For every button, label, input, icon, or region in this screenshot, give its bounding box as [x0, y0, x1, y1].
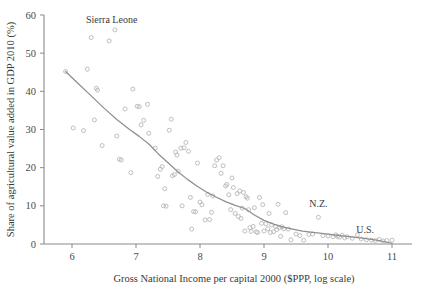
data-point	[139, 123, 143, 127]
data-point	[147, 131, 151, 135]
data-point	[213, 164, 217, 168]
data-point	[85, 67, 89, 71]
y-tick-label: 40	[26, 86, 37, 97]
data-point	[156, 174, 160, 178]
point-annotation-label: Sierra Leone	[86, 14, 138, 25]
data-point	[294, 232, 298, 236]
data-point	[221, 164, 225, 168]
data-point	[188, 195, 192, 199]
x-tick-label: 6	[69, 251, 74, 262]
data-point	[238, 189, 242, 193]
data-point	[258, 195, 262, 199]
data-point	[261, 203, 265, 207]
data-point	[302, 238, 306, 242]
data-points-group	[64, 28, 394, 243]
data-point	[92, 118, 96, 122]
data-point	[186, 149, 190, 153]
data-point	[107, 39, 111, 43]
x-tick-label: 7	[133, 251, 138, 262]
data-point	[307, 232, 311, 236]
point-annotation-label: N.Z.	[309, 198, 327, 209]
data-point	[131, 87, 135, 91]
data-point	[208, 218, 212, 222]
data-point	[242, 190, 246, 194]
data-point	[100, 144, 104, 148]
data-point	[113, 28, 117, 32]
data-point	[146, 102, 150, 106]
annotations-group: Sierra LeoneN.Z.U.S.	[86, 14, 374, 235]
chart-figure: 010203040506067891011 Sierra LeoneN.Z.U.…	[0, 0, 430, 290]
point-annotation-label: U.S.	[356, 224, 374, 235]
y-axis-title: Share of agricultural value added in GDP…	[5, 21, 17, 237]
data-point	[123, 107, 127, 111]
data-point	[252, 206, 256, 210]
data-point	[316, 215, 320, 219]
data-point	[167, 128, 171, 132]
data-point	[190, 227, 194, 231]
y-tick-label: 30	[26, 124, 37, 135]
axes-group: 010203040506067891011	[26, 10, 413, 262]
data-point	[164, 204, 168, 208]
data-point	[289, 238, 293, 242]
data-point	[89, 36, 93, 40]
data-point	[284, 211, 288, 215]
x-axis-title: Gross National Income per capital 2000 (…	[113, 273, 355, 285]
data-point	[249, 229, 253, 233]
data-point	[227, 193, 231, 197]
data-point	[262, 229, 266, 233]
x-tick-label: 11	[387, 251, 397, 262]
trend-line-group	[66, 71, 392, 243]
data-point	[267, 211, 271, 215]
data-point	[184, 140, 188, 144]
data-point	[390, 238, 394, 242]
data-point	[169, 117, 173, 121]
data-point	[279, 234, 283, 238]
trend-line	[66, 71, 392, 243]
y-tick-label: 0	[31, 239, 36, 250]
data-point	[163, 187, 167, 191]
data-point	[215, 158, 219, 162]
data-point	[195, 161, 199, 165]
data-point	[266, 227, 270, 231]
y-tick-label: 60	[26, 10, 37, 21]
axis-titles-group: Gross National Income per capital 2000 (…	[5, 21, 355, 285]
y-tick-label: 10	[26, 200, 37, 211]
data-point	[230, 176, 234, 180]
data-point	[203, 218, 207, 222]
scatter-plot-svg: 010203040506067891011 Sierra LeoneN.Z.U.…	[0, 0, 430, 290]
data-point	[276, 202, 280, 206]
data-point	[219, 171, 223, 175]
data-point	[259, 221, 263, 225]
data-point	[115, 134, 119, 138]
data-point	[82, 129, 86, 133]
y-tick-label: 20	[26, 162, 37, 173]
x-tick-label: 8	[197, 251, 202, 262]
data-point	[233, 211, 237, 215]
data-point	[243, 229, 247, 233]
x-tick-label: 10	[323, 251, 334, 262]
data-point	[210, 210, 214, 214]
data-point	[180, 204, 184, 208]
data-point	[264, 222, 268, 226]
data-point	[231, 186, 235, 190]
y-tick-label: 50	[26, 48, 37, 59]
x-tick-label: 9	[261, 251, 266, 262]
data-point	[298, 234, 302, 238]
data-point	[229, 208, 233, 212]
data-point	[256, 231, 260, 235]
data-point	[71, 126, 75, 130]
data-point	[142, 118, 146, 122]
data-point	[129, 171, 133, 175]
data-point	[217, 156, 221, 160]
